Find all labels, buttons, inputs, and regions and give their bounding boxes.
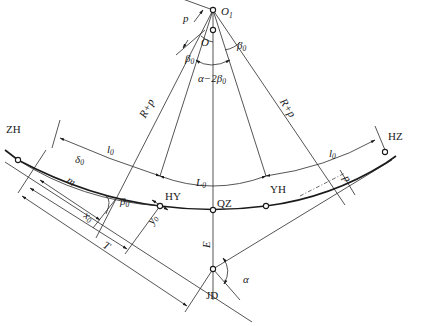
labels: O1 O p β0 β0 α−2β0 R+p R+p ZH HY QZ YH H… xyxy=(6,5,403,301)
label-r-plus-p-left: R+p xyxy=(136,96,157,120)
label-r-plus-p-right: R+p xyxy=(277,95,299,119)
point-o1 xyxy=(210,7,215,12)
radius-line-left-rp xyxy=(96,10,213,238)
label-alpha-2beta0: α−2β0 xyxy=(198,72,226,86)
radius-line-right-rp xyxy=(213,10,345,205)
angle-arc-alpha xyxy=(223,258,228,284)
point-qz xyxy=(210,207,215,212)
label-l0-right: l0 xyxy=(329,147,336,161)
chord-zh-hy xyxy=(18,160,160,206)
label-yh: YH xyxy=(270,183,286,195)
label-jd: JD xyxy=(206,289,218,301)
radius-line-hy xyxy=(160,10,213,176)
label-p: p xyxy=(182,12,189,24)
point-zh xyxy=(15,157,20,162)
label-y0: y0 xyxy=(144,212,161,228)
label-beta0-right: β0 xyxy=(236,39,246,53)
label-delta0: δ0 xyxy=(75,153,84,167)
label-beta0-hy: β0 xyxy=(119,195,129,209)
label-hz: HZ xyxy=(388,130,403,142)
label-beta0-left: β0 xyxy=(184,52,194,66)
label-hy: HY xyxy=(165,190,181,202)
radius-line-yh xyxy=(213,10,266,176)
label-E: E xyxy=(200,241,212,249)
label-o1: O1 xyxy=(221,5,233,20)
label-zh: ZH xyxy=(6,123,21,135)
label-T: T xyxy=(101,239,113,253)
point-hz xyxy=(382,149,387,154)
label-o: O xyxy=(201,36,209,48)
transition-curve-diagram: O1 O p β0 β0 α−2β0 R+p R+p ZH HY QZ YH H… xyxy=(0,0,428,326)
label-alpha: α xyxy=(243,273,249,285)
label-l0-left: l0 xyxy=(107,143,114,157)
label-L0: L0 xyxy=(195,176,206,190)
point-jd xyxy=(210,266,215,271)
diagram-canvas: O1 O p β0 β0 α−2β0 R+p R+p ZH HY QZ YH H… xyxy=(0,0,428,326)
l0-right-arc xyxy=(266,140,375,176)
tangent-right xyxy=(213,160,392,269)
point-yh xyxy=(263,203,268,208)
radial-lines xyxy=(96,10,345,300)
label-qz: QZ xyxy=(217,197,232,209)
label-x0: x0 xyxy=(80,208,96,225)
point-hy xyxy=(157,203,162,208)
point-o xyxy=(210,27,215,32)
